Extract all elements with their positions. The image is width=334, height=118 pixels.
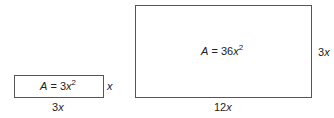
width-var: x: [226, 101, 232, 113]
large-height-label: 3x: [318, 46, 330, 58]
small-width-label: 3x: [52, 101, 64, 113]
large-width-label: 12x: [214, 101, 232, 113]
area-exp: 2: [72, 78, 76, 87]
height-var: x: [107, 80, 113, 92]
area-exp: 2: [239, 43, 243, 52]
area-eq: = 3: [47, 80, 66, 92]
height-var: x: [324, 46, 330, 58]
small-area-label: A = 3x2: [40, 80, 76, 92]
small-height-label: x: [107, 80, 113, 92]
width-coef: 12: [214, 101, 226, 113]
area-eq: = 36: [208, 45, 233, 57]
width-var: x: [58, 101, 64, 113]
large-area-label: A = 36x2: [201, 45, 243, 57]
